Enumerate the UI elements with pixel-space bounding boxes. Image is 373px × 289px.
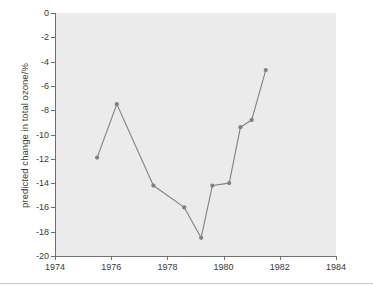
chart-figure: predicted change in total ozone/% 0-2-4-… xyxy=(0,0,373,289)
axis-spines-and-ticks xyxy=(0,0,373,289)
bottom-divider xyxy=(0,283,373,284)
